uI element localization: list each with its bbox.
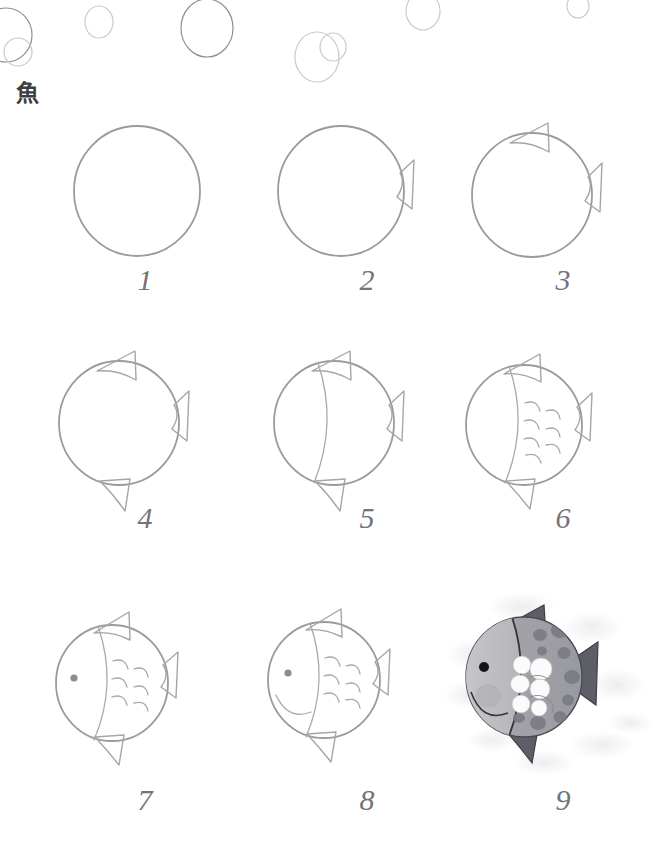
step-8-drawing [256,585,478,785]
step-2-tail: 2 [256,105,478,357]
body-circle [472,133,592,257]
eye-icon [284,669,291,676]
scale-arc [346,683,360,692]
scale-arc [524,438,539,447]
step-8-mouth: 8 [256,585,478,837]
snout-shade [475,684,501,708]
bubble-icon [0,8,32,62]
head-line [94,626,107,740]
bubble-icon [85,6,113,38]
scale-arc [526,454,541,463]
step-3-dorsal-fin: 3 [452,105,666,357]
spot [558,647,571,659]
spot [537,647,547,656]
step-number: 1 [34,265,256,295]
scales-group [324,657,360,708]
step-number: 9 [452,785,666,815]
body-circle [56,625,168,741]
head-line [306,623,319,737]
spot [564,670,580,684]
white-scale [511,675,530,693]
scale-arc [324,693,339,702]
body-circle [74,126,200,256]
scale-arc [134,668,148,677]
dorsal-fin [97,351,136,380]
scale-arc [324,675,339,684]
scale-arc [546,410,560,419]
scale-arc [325,657,340,666]
step-7-eye: 7 [34,585,256,837]
body-circle [59,361,179,485]
tutorial-page: 魚 1 2 3 [0,0,666,863]
head-line [314,363,327,483]
eye-icon [479,662,489,672]
step-5-head-line: 5 [256,335,478,587]
step-9-drawing [452,585,666,785]
bubble-icon [406,0,440,30]
scale-arc [113,660,128,669]
white-scale [513,656,531,674]
step-number: 3 [452,265,666,295]
scales-group [524,402,560,463]
step-number: 2 [256,265,478,295]
step-9-colored: 9 [452,585,666,837]
scale-arc [134,702,148,711]
white-scale [530,658,552,680]
scales-group [112,660,148,711]
bubbles-decoration [0,0,666,110]
step-number: 5 [256,503,478,533]
dorsal-fin [510,123,549,152]
steps-grid: 1 2 3 4 [0,105,666,863]
scale-arc [112,696,127,705]
scale-arc [524,420,539,429]
step-number: 8 [256,785,478,815]
scale-arc [346,665,360,674]
body-circle [466,365,582,485]
step-number: 4 [34,503,256,533]
head-section [466,615,521,740]
head-line [505,366,518,483]
scale-arc [546,444,560,453]
white-scale [512,695,530,713]
step-6-scales: 6 [452,335,666,587]
scale-arc [112,678,127,687]
white-scales-group [511,656,553,716]
bubble-icon [181,0,233,57]
step-number: 7 [34,785,256,815]
bubble-icon [320,33,346,61]
white-scale [531,700,547,716]
step-7-drawing [34,585,256,785]
scale-arc [546,428,560,437]
body-circle [278,126,404,256]
spot [554,711,567,723]
body-circle [274,361,394,485]
step-1-circle: 1 [34,105,256,357]
eye-icon [70,674,77,681]
spot [513,713,525,723]
scale-arc [134,686,148,695]
mouth-line [276,695,311,714]
spot [530,716,546,730]
dorsal-fin [312,351,351,380]
step-number: 6 [452,503,666,533]
scale-arc [525,402,540,411]
spot [533,629,547,641]
bubble-icon [295,32,339,82]
bubble-icon [4,38,32,66]
page-title-kanji: 魚 [16,82,39,105]
body-circle [268,622,380,738]
scale-arc [346,699,360,708]
step-4-bottom-fin: 4 [34,335,256,587]
spot [562,695,574,706]
bubble-icon [567,0,589,18]
